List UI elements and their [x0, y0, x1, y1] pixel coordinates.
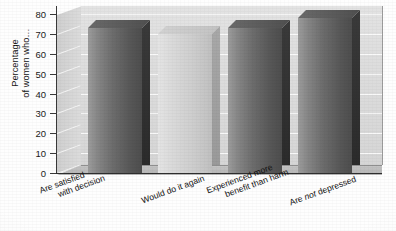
bar-side-face: [142, 20, 150, 165]
y-axis-tick: [50, 94, 56, 95]
x-axis-label-2: Would do it again: [140, 173, 206, 205]
bar-chart-figure: Percentage of women who… 010203040506070…: [0, 0, 396, 231]
left-wall-gridline: [57, 65, 81, 75]
y-axis-title-line-1: Percentage: [10, 3, 21, 123]
left-wall-gridline: [57, 45, 81, 55]
x-axis-label-line: Would do it again: [140, 173, 206, 205]
bar-side-face: [282, 20, 290, 165]
left-wall-gridline: [57, 105, 81, 115]
x-axis-line: [56, 173, 382, 174]
left-wall-gridline: [57, 85, 81, 95]
y-axis-tick-label: 20: [22, 129, 46, 138]
bar-top-face: [298, 10, 360, 18]
bar-front-face: [88, 28, 142, 173]
y-axis-tick: [50, 133, 56, 134]
y-axis-line: [56, 6, 57, 174]
bar-front-face: [158, 34, 212, 173]
y-axis-tick: [50, 74, 56, 75]
bar-3: [228, 20, 290, 173]
y-axis-title: Percentage of women who…: [10, 3, 32, 123]
plot-left-wall: [57, 6, 82, 174]
x-axis-label-4: Are not depressed: [288, 174, 357, 208]
bar-4: [298, 10, 360, 173]
left-wall-gridline: [57, 5, 81, 15]
y-axis-tick: [50, 153, 56, 154]
y-axis-tick: [50, 54, 56, 55]
y-axis-tick: [50, 34, 56, 35]
bar-front-face: [298, 18, 352, 173]
x-axis-label-line: Are not depressed: [288, 174, 357, 208]
y-axis-tick: [50, 14, 56, 15]
bar-front-face: [228, 28, 282, 173]
plot-area: [57, 6, 382, 174]
y-axis-title-line-2: of women who…: [21, 3, 32, 123]
left-wall-gridline: [57, 25, 81, 35]
y-axis-tick: [50, 113, 56, 114]
bar-1: [88, 20, 150, 173]
left-wall-gridline: [57, 125, 81, 135]
bar-top-face: [158, 26, 220, 34]
left-wall-gridline: [57, 145, 81, 155]
y-axis-tick: [50, 173, 56, 174]
y-axis-tick-label: 10: [22, 149, 46, 158]
bar-side-face: [212, 26, 220, 165]
emphasised-word: not: [303, 188, 318, 202]
bar-top-face: [228, 20, 290, 28]
bar-side-face: [352, 10, 360, 165]
bar-2: [158, 26, 220, 173]
bar-top-face: [88, 20, 150, 28]
y-axis-tick-label: 0: [22, 169, 46, 178]
